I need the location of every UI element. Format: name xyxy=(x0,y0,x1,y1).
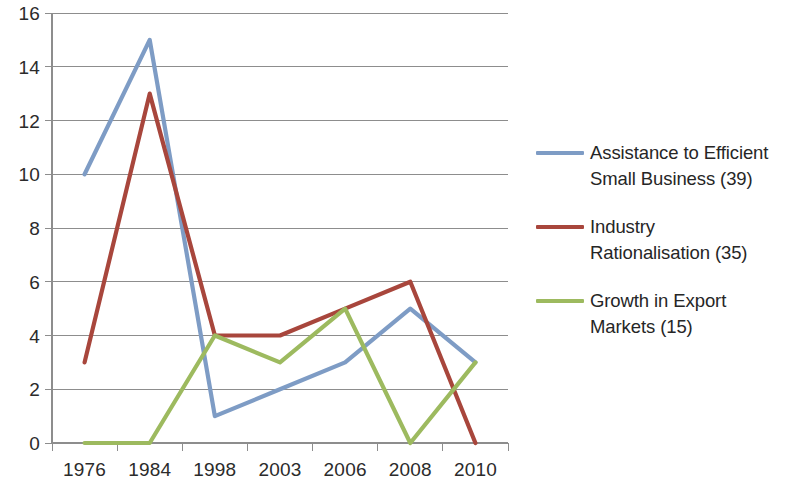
legend-color-swatch xyxy=(536,299,584,303)
legend-item-label: IndustryRationalisation (35) xyxy=(590,214,747,266)
x-axis-tick-label: 1984 xyxy=(128,459,171,480)
legend-color-swatch xyxy=(536,225,584,229)
legend-item[interactable]: IndustryRationalisation (35) xyxy=(536,214,801,266)
legend-item-label: Assistance to EfficientSmall Business (3… xyxy=(590,140,768,192)
y-axis-tick-label: 4 xyxy=(29,326,40,347)
chart-page: 0246810121416197619841998200320062008201… xyxy=(0,0,801,482)
y-axis-tick-label: 8 xyxy=(29,218,40,239)
y-axis-tick-label: 12 xyxy=(18,111,40,132)
chart-legend: Assistance to EfficientSmall Business (3… xyxy=(536,140,801,362)
chart-canvas: 0246810121416197619841998200320062008201… xyxy=(0,0,520,482)
series-line-2 xyxy=(85,309,476,443)
legend-color-swatch xyxy=(536,151,584,155)
y-axis-tick-label: 16 xyxy=(18,3,40,24)
x-axis-tick-label: 2006 xyxy=(324,459,367,480)
legend-item-label: Growth in ExportMarkets (15) xyxy=(590,288,726,340)
y-axis-tick-label: 6 xyxy=(29,272,40,293)
y-axis-tick-label: 2 xyxy=(29,379,40,400)
x-axis-tick-label: 1998 xyxy=(193,459,236,480)
x-axis-tick-label: 1976 xyxy=(63,459,106,480)
line-chart: 0246810121416197619841998200320062008201… xyxy=(0,0,520,482)
legend-item[interactable]: Assistance to EfficientSmall Business (3… xyxy=(536,140,801,192)
y-axis-tick-label: 14 xyxy=(18,57,40,78)
y-axis-tick-label: 0 xyxy=(29,433,40,454)
y-axis-tick-label: 10 xyxy=(18,164,40,185)
x-axis-tick-label: 2008 xyxy=(389,459,432,480)
x-axis-tick-label: 2010 xyxy=(454,459,497,480)
legend-item[interactable]: Growth in ExportMarkets (15) xyxy=(536,288,801,340)
x-axis-tick-label: 2003 xyxy=(258,459,301,480)
